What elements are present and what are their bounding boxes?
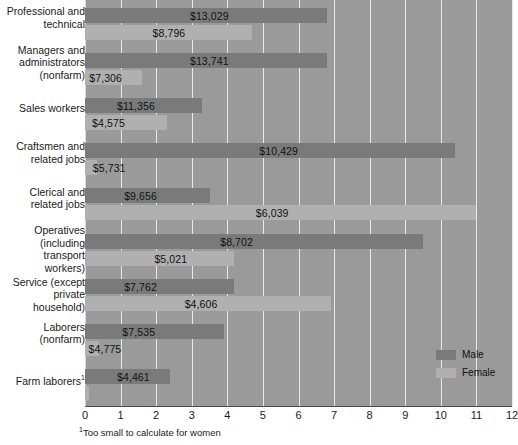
category-label: Farm laborers1 [2, 372, 85, 387]
category-label: Laborers(nonfarm) [2, 321, 85, 346]
footnote-text: Too small to calculate for women [83, 427, 221, 438]
bar-value-label: $13,741 [190, 55, 229, 67]
gridline-7 [334, 0, 335, 406]
x-tick-label-6: 6 [295, 409, 301, 421]
category-label: Sales workers [2, 102, 85, 115]
x-tick-label-3: 3 [189, 409, 195, 421]
category-label-line: related jobs [2, 198, 85, 211]
category-label: Clerical andrelated jobs [2, 186, 85, 211]
bar-value-label: $13,029 [190, 10, 229, 22]
bar-value-label: $7,306 [89, 72, 122, 84]
category-label-line: Operatives [2, 224, 85, 237]
legend-item-female: Female [436, 367, 495, 378]
bar-value-label: $7,762 [124, 281, 157, 293]
x-tick-label-11: 11 [471, 409, 482, 421]
x-tick-label-4: 4 [224, 409, 230, 421]
bar-value-label: $4,461 [117, 371, 150, 383]
category-label: Managers andadministrators(nonfarm) [2, 44, 85, 82]
category-label-line: private household) [2, 288, 85, 313]
x-tick-label-1: 1 [118, 409, 124, 421]
bar-value-label: $4,775 [89, 343, 122, 355]
category-label-line: (nonfarm) [2, 69, 85, 82]
bar-value-label: $8,702 [220, 236, 253, 248]
bar-value-label: $10,429 [259, 145, 298, 157]
category-label-line: Managers and [2, 44, 85, 57]
bar-value-label: $4,606 [185, 298, 218, 310]
gridline-11 [476, 0, 477, 406]
bar-value-label: $9,656 [124, 190, 157, 202]
x-tick-label-10: 10 [435, 409, 447, 421]
legend-swatch-female-icon [436, 368, 456, 378]
gridline-8 [370, 0, 371, 406]
x-tick-label-2: 2 [153, 409, 159, 421]
category-label-line: Sales workers [2, 102, 85, 115]
category-label-line: technical [2, 18, 85, 31]
category-label-line: (including transport [2, 237, 85, 262]
category-label-line: Clerical and [2, 186, 85, 199]
x-tick-label-0: 0 [82, 409, 88, 421]
plot-area: $13,029$8,796$13,741$7,306$11,356$4,575$… [85, 0, 512, 406]
category-label: Professional andtechnical [2, 5, 85, 30]
category-label-line: Laborers [2, 321, 85, 334]
legend: Male Female [436, 349, 495, 385]
legend-item-male: Male [436, 349, 495, 360]
bar-chart: $13,029$8,796$13,741$7,306$11,356$4,575$… [0, 0, 518, 445]
bar-value-label: $7,535 [122, 326, 155, 338]
gridline-9 [405, 0, 406, 406]
x-tick-label-7: 7 [331, 409, 337, 421]
category-label: Operatives(including transportworkers) [2, 224, 85, 274]
category-label-column: Professional andtechnicalManagers andadm… [0, 0, 85, 406]
bar-value-label: $5,731 [93, 162, 126, 174]
legend-label-male: Male [462, 349, 484, 360]
x-tick-label-5: 5 [260, 409, 266, 421]
bar-value-label: $4,575 [92, 117, 125, 129]
bar-female [85, 386, 89, 401]
category-label: Craftsmen andrelated jobs [2, 140, 85, 165]
bar-value-label: $8,796 [153, 27, 186, 39]
x-tick-label-8: 8 [367, 409, 373, 421]
category-label-line: Professional and [2, 5, 85, 18]
bar-value-label: $11,356 [117, 100, 155, 112]
category-label-line: workers) [2, 262, 85, 275]
bar-male [85, 234, 423, 249]
category-label-line: administrators [2, 56, 85, 69]
bar-value-label: $5,021 [154, 253, 187, 265]
x-tick-label-12: 12 [506, 409, 518, 421]
category-label-line: related jobs [2, 153, 85, 166]
footnote-ref: 1 [81, 374, 85, 381]
gridline-12 [512, 0, 513, 406]
category-label-line: (nonfarm) [2, 333, 85, 346]
legend-swatch-male-icon [436, 350, 456, 360]
gridline-10 [441, 0, 442, 406]
category-label-line: Craftsmen and [2, 140, 85, 153]
legend-label-female: Female [462, 367, 495, 378]
x-tick-label-9: 9 [402, 409, 408, 421]
bar-value-label: $6,039 [256, 207, 289, 219]
footnote: 1Too small to calculate for women [79, 426, 221, 438]
x-axis-line [85, 406, 512, 407]
category-label: Service (exceptprivate household) [2, 276, 85, 314]
bar-male [85, 279, 234, 294]
category-label-line: Service (except [2, 276, 85, 289]
